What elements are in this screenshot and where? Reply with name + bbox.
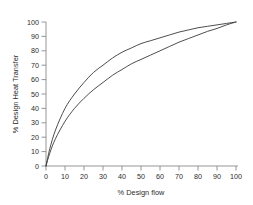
- x-tick-label: 90: [213, 172, 221, 181]
- chart-figure: 0 10 20 30 40 50 60 70 80 90 100: [0, 0, 253, 205]
- y-axis-title: % Design Heat Transfer: [11, 54, 20, 133]
- x-tick-label: 0: [44, 172, 48, 181]
- x-axis-title: % Design flow: [118, 188, 165, 197]
- x-tick-label: 60: [156, 172, 164, 181]
- x-tick-label: 80: [194, 172, 202, 181]
- y-tick-label: 40: [31, 104, 39, 113]
- x-tick-label: 30: [99, 172, 107, 181]
- x-tick-label: 20: [80, 172, 88, 181]
- y-tick-label: 60: [31, 75, 39, 84]
- heat-transfer-vs-flow-chart: 0 10 20 30 40 50 60 70 80 90 100: [0, 0, 253, 205]
- y-tick-label: 20: [31, 133, 39, 142]
- y-tick-label: 70: [31, 61, 39, 70]
- y-tick-label: 50: [31, 90, 39, 99]
- x-tick-label: 70: [175, 172, 183, 181]
- x-tick-label: 10: [61, 172, 69, 181]
- x-tick-label: 40: [118, 172, 126, 181]
- x-tick-label: 50: [137, 172, 145, 181]
- y-tick-label: 30: [31, 118, 39, 127]
- y-tick-label: 0: [35, 162, 39, 171]
- x-tick-label: 100: [230, 172, 242, 181]
- y-tick-label: 90: [31, 32, 39, 41]
- y-tick-label: 80: [31, 46, 39, 55]
- y-tick-label: 100: [27, 18, 39, 27]
- y-tick-label: 10: [31, 147, 39, 156]
